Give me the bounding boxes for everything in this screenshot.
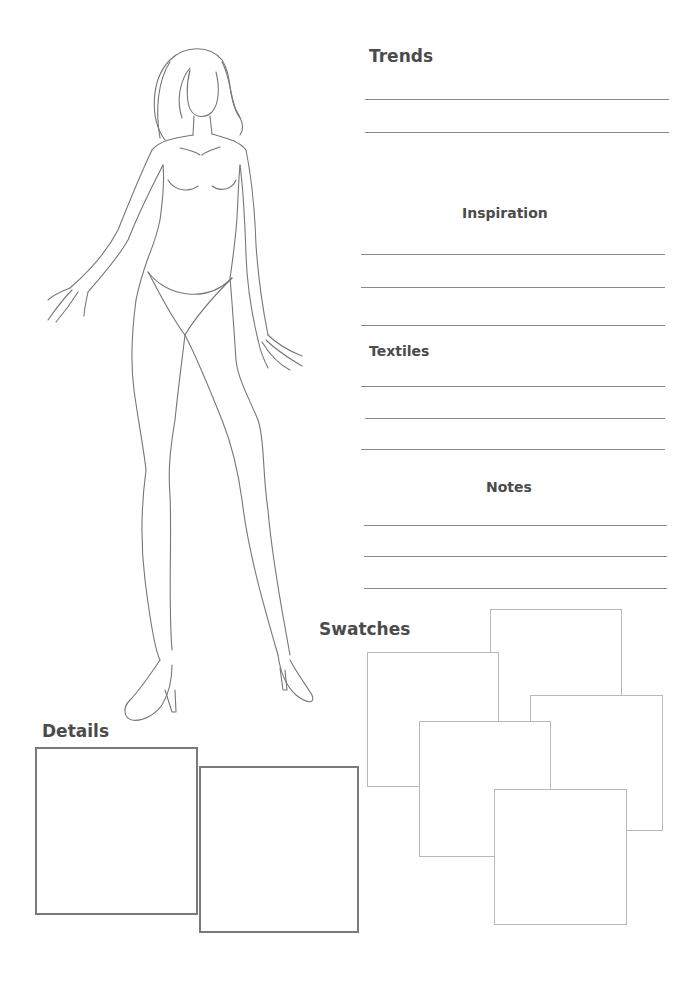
details-heading: Details bbox=[42, 721, 109, 741]
notes-line-3[interactable] bbox=[364, 588, 667, 589]
trends-line-1[interactable] bbox=[365, 99, 669, 100]
inspiration-line-2[interactable] bbox=[361, 287, 665, 288]
swatches-heading: Swatches bbox=[319, 619, 410, 639]
textiles-heading: Textiles bbox=[369, 343, 429, 359]
trends-line-2[interactable] bbox=[365, 132, 669, 133]
swatch-box-5[interactable] bbox=[494, 789, 627, 925]
textiles-line-3[interactable] bbox=[361, 449, 665, 450]
inspiration-line-3[interactable] bbox=[361, 325, 665, 326]
inspiration-heading: Inspiration bbox=[462, 205, 548, 221]
notes-line-1[interactable] bbox=[364, 525, 667, 526]
details-box-1[interactable] bbox=[35, 747, 198, 915]
notes-line-2[interactable] bbox=[364, 556, 667, 557]
details-box-2[interactable] bbox=[199, 766, 359, 933]
textiles-line-2[interactable] bbox=[365, 418, 665, 419]
trends-heading: Trends bbox=[369, 46, 433, 66]
textiles-line-1[interactable] bbox=[361, 386, 665, 387]
inspiration-line-1[interactable] bbox=[361, 254, 665, 255]
notes-heading: Notes bbox=[486, 479, 532, 495]
